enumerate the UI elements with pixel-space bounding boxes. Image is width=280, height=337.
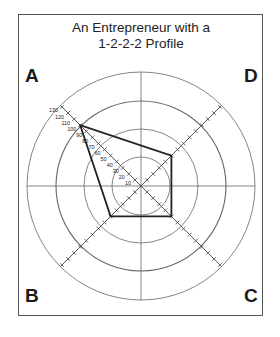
- radar-plot: 102030405060708090100110120130: [0, 0, 280, 337]
- tick-label: 50: [101, 156, 107, 162]
- tick-label: 10: [125, 180, 131, 186]
- tick-label: 20: [119, 174, 125, 180]
- tick-label: 70: [88, 144, 94, 150]
- tick-label: 130: [49, 107, 58, 113]
- tick-label: 100: [67, 126, 76, 132]
- tick-label: 110: [62, 120, 71, 126]
- tick-label: 90: [76, 132, 82, 138]
- tick-label: 120: [55, 114, 64, 120]
- tick-label: 40: [107, 162, 113, 168]
- tick-label: 60: [95, 150, 101, 156]
- tick-label: 30: [113, 168, 119, 174]
- tick-labels: 102030405060708090100110120130: [49, 107, 131, 186]
